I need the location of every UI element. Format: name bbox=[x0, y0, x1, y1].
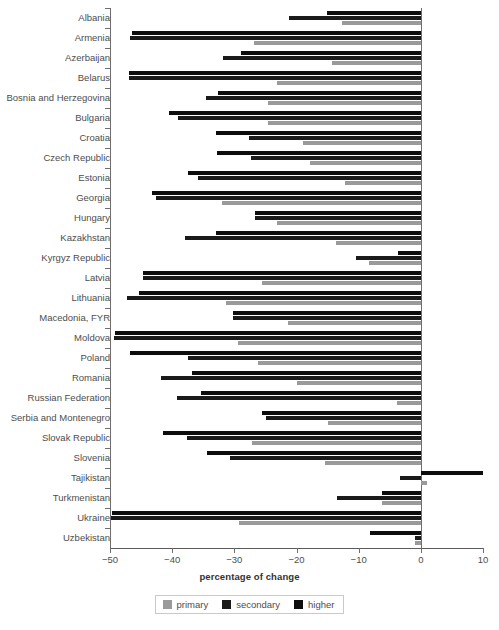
bar-secondary bbox=[177, 396, 421, 400]
bar-primary bbox=[222, 201, 421, 205]
bar-primary bbox=[342, 21, 421, 25]
bar-higher bbox=[163, 431, 421, 435]
bar-group bbox=[110, 150, 483, 170]
bar-secondary bbox=[249, 136, 421, 140]
bar-primary bbox=[262, 281, 421, 285]
x-axis-tick bbox=[110, 548, 111, 553]
bar-secondary bbox=[415, 536, 421, 540]
x-axis-tick-label: 0 bbox=[401, 554, 441, 565]
bar-secondary bbox=[143, 276, 421, 280]
bar-higher bbox=[129, 71, 421, 75]
bar-primary bbox=[277, 81, 421, 85]
x-axis-tick-label: −20 bbox=[277, 554, 317, 565]
y-axis-label: Bosnia and Herzegovina bbox=[6, 93, 110, 103]
bar-primary bbox=[258, 361, 421, 365]
bar-higher bbox=[262, 411, 421, 415]
bar-group bbox=[110, 90, 483, 110]
y-axis-label: Russian Federation bbox=[6, 393, 110, 403]
y-axis-label: Slovenia bbox=[6, 453, 110, 463]
bar-primary bbox=[252, 441, 421, 445]
bar-group bbox=[110, 30, 483, 50]
bar-secondary bbox=[111, 516, 421, 520]
y-axis-label: Czech Republic bbox=[6, 153, 110, 163]
legend-item-primary: primary bbox=[163, 599, 209, 610]
legend-box: primarysecondaryhigher bbox=[155, 595, 345, 614]
bar-primary bbox=[397, 401, 421, 405]
bar-higher bbox=[382, 491, 421, 495]
bar-primary bbox=[239, 521, 421, 525]
bar-primary bbox=[288, 321, 421, 325]
x-axis-tick bbox=[172, 548, 173, 553]
x-axis-title: percentage of change bbox=[0, 571, 499, 582]
x-axis-tick bbox=[359, 548, 360, 553]
bar-secondary bbox=[233, 316, 421, 320]
bar-higher bbox=[139, 291, 421, 295]
bar-secondary bbox=[188, 356, 421, 360]
bar-primary bbox=[336, 241, 421, 245]
bar-secondary bbox=[289, 16, 421, 20]
y-axis-category-labels: AlbaniaArmeniaAzerbaijanBelarusBosnia an… bbox=[0, 8, 110, 548]
bar-primary bbox=[328, 421, 421, 425]
legend-label: primary bbox=[177, 599, 209, 610]
bar-group bbox=[110, 350, 483, 370]
bar-higher bbox=[216, 231, 421, 235]
bar-higher bbox=[152, 191, 421, 195]
y-axis-label: Albania bbox=[6, 13, 110, 23]
bar-group bbox=[110, 330, 483, 350]
bar-secondary bbox=[198, 176, 421, 180]
bar-secondary bbox=[356, 256, 421, 260]
y-axis-label: Ukraine bbox=[6, 513, 110, 523]
bar-higher bbox=[188, 171, 421, 175]
bar-group bbox=[110, 310, 483, 330]
bar-group bbox=[110, 530, 483, 550]
bar-secondary bbox=[127, 296, 421, 300]
y-axis-label: Kyrgyz Republic bbox=[6, 253, 110, 263]
bar-higher bbox=[112, 511, 421, 515]
bar-group bbox=[110, 430, 483, 450]
bar-primary bbox=[310, 161, 421, 165]
bar-group bbox=[110, 390, 483, 410]
bar-group bbox=[110, 190, 483, 210]
bar-secondary bbox=[187, 436, 421, 440]
bar-secondary bbox=[161, 376, 421, 380]
y-axis-label: Turkmenistan bbox=[6, 493, 110, 503]
bar-primary bbox=[325, 461, 421, 465]
bar-group bbox=[110, 270, 483, 290]
bar-primary bbox=[345, 181, 421, 185]
legend-swatch-higher bbox=[294, 600, 303, 609]
bar-primary bbox=[297, 381, 421, 385]
bar-higher bbox=[421, 471, 483, 475]
x-axis-tick-label: 10 bbox=[463, 554, 499, 565]
bar-primary bbox=[268, 121, 421, 125]
bar-secondary bbox=[230, 456, 421, 460]
bar-higher bbox=[132, 31, 421, 35]
bar-primary bbox=[369, 261, 421, 265]
y-axis-label: Estonia bbox=[6, 173, 110, 183]
y-axis-label: Croatia bbox=[6, 133, 110, 143]
bar-group bbox=[110, 410, 483, 430]
bar-higher bbox=[169, 111, 421, 115]
x-axis-tick-label: −10 bbox=[339, 554, 379, 565]
bar-primary bbox=[332, 61, 421, 65]
bar-secondary bbox=[266, 416, 421, 420]
bar-secondary bbox=[178, 116, 421, 120]
bar-secondary bbox=[129, 76, 421, 80]
bar-higher bbox=[192, 371, 421, 375]
bar-primary bbox=[226, 301, 421, 305]
y-axis-label: Macedonia, FYR bbox=[6, 313, 110, 323]
bar-group bbox=[110, 290, 483, 310]
bar-secondary bbox=[255, 216, 420, 220]
bar-higher bbox=[370, 531, 420, 535]
bar-group bbox=[110, 450, 483, 470]
bar-group bbox=[110, 510, 483, 530]
bar-group bbox=[110, 70, 483, 90]
bar-group bbox=[110, 370, 483, 390]
y-axis-label: Slovak Republic bbox=[6, 433, 110, 443]
legend: primarysecondaryhigher bbox=[0, 595, 499, 614]
bar-higher bbox=[241, 51, 421, 55]
bar-secondary bbox=[185, 236, 421, 240]
y-axis-label: Bulgaria bbox=[6, 113, 110, 123]
bar-group bbox=[110, 490, 483, 510]
y-axis-label: Moldova bbox=[6, 333, 110, 343]
legend-label: higher bbox=[308, 599, 334, 610]
